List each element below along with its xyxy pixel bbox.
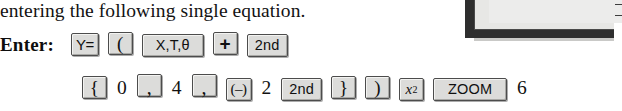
calculator-key-[interactable]: ,	[137, 74, 162, 97]
calculator-key-[interactable]: {	[82, 76, 107, 99]
calculator-key-[interactable]: (	[108, 32, 133, 55]
calculator-key-x-t[interactable]: X,T,θ	[142, 34, 204, 57]
calculator-key-[interactable]: ,	[192, 74, 217, 97]
figure-lcd-area	[489, 0, 622, 23]
calculator-key-zoom[interactable]: ZOOM	[433, 78, 507, 101]
keystroke-row-2-items: {0,4,(–)22nd})x2ZOOM6	[82, 74, 528, 101]
calculator-screen-figure	[465, 0, 614, 40]
calculator-key-[interactable]: (–)	[226, 78, 252, 101]
typed-digit: 0	[116, 77, 128, 98]
keystroke-row-1-items: Y=(X,T,θ+2nd	[71, 32, 288, 57]
figure-undershadow	[474, 38, 614, 41]
calculator-key-2nd[interactable]: 2nd	[281, 78, 322, 101]
typed-digit: 4	[171, 77, 183, 98]
calculator-key-plus[interactable]: +	[213, 32, 238, 55]
figure-lcd-grid	[615, 0, 622, 23]
keystroke-row-2: {0,4,(–)22nd})x2ZOOM6	[82, 74, 528, 101]
enter-label: Enter:	[0, 35, 54, 54]
instruction-text: entering the following single equation.	[0, 0, 306, 24]
calculator-key-x[interactable]: x2	[399, 78, 424, 101]
figure-bottom-shadow	[465, 30, 614, 38]
typed-digit: 6	[516, 77, 528, 98]
calculator-key-[interactable]: )	[365, 76, 390, 99]
typed-digit: 2	[261, 77, 273, 98]
calculator-key-2nd[interactable]: 2nd	[247, 34, 288, 57]
calculator-key-yequals[interactable]: Y=	[71, 33, 99, 56]
keystroke-row-1: Enter: Y=(X,T,θ+2nd	[0, 32, 288, 57]
calculator-key-[interactable]: }	[331, 76, 356, 99]
figure-bezel	[474, 0, 614, 30]
